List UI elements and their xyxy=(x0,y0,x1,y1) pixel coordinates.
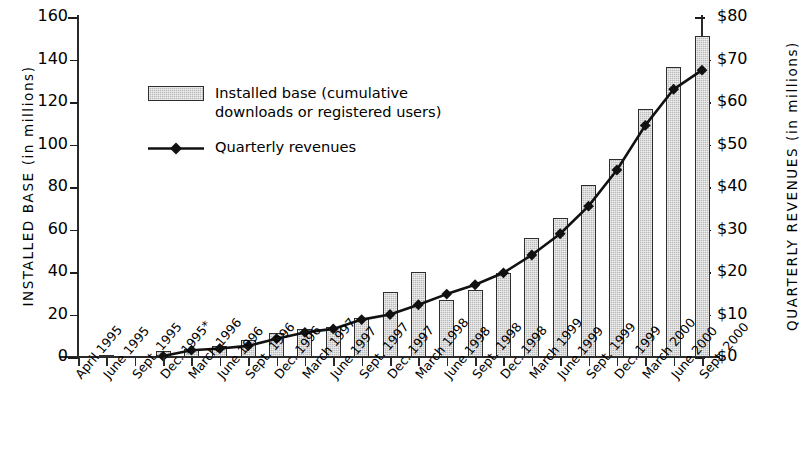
line-diamond-icon xyxy=(148,141,204,156)
y-axis-right-tick-label: $50 xyxy=(717,134,779,153)
y-axis-left-tick-mark xyxy=(70,272,78,274)
y-axis-right-tick-label: $60 xyxy=(717,91,779,110)
line-marker-diamond xyxy=(470,279,481,290)
legend-item-installed-base: Installed base (cumulative downloads or … xyxy=(148,84,441,121)
y-axis-right-tick-label: $70 xyxy=(717,49,779,68)
legend-label-installed-base: Installed base (cumulative downloads or … xyxy=(215,84,441,121)
y-axis-left-tick-mark xyxy=(70,60,78,62)
legend-item-quarterly-revenues: Quarterly revenues xyxy=(148,138,441,157)
y-axis-left-tick-label: 40 xyxy=(8,261,68,280)
y-axis-left-tick-label: 80 xyxy=(8,176,68,195)
y-axis-right-tick-label: $80 xyxy=(717,6,779,25)
y-axis-left-tick-mark xyxy=(70,315,78,317)
line-marker-diamond xyxy=(441,289,452,300)
line-series xyxy=(78,17,702,357)
y-axis-left-tick-mark xyxy=(68,17,78,19)
y-axis-left-tick-label: 60 xyxy=(8,219,68,238)
y-axis-left-tick-mark xyxy=(70,102,78,104)
y-axis-right-tick-label: $40 xyxy=(717,176,779,195)
chart-legend: Installed base (cumulative downloads or … xyxy=(148,84,441,166)
y-axis-right-tick-label: $20 xyxy=(717,261,779,280)
line-marker-diamond xyxy=(385,309,396,320)
y-axis-left-tick-label: 140 xyxy=(8,49,68,68)
y-axis-left-tick-mark xyxy=(68,357,78,359)
y-axis-left-tick-mark xyxy=(70,230,78,232)
y-axis-left-tick-label: 160 xyxy=(8,6,68,25)
y-axis-right-title: QUARTERLY REVENUES (in millions) xyxy=(784,6,800,366)
y-axis-right-tick-label: $10 xyxy=(717,304,779,323)
line-diamond-glyph xyxy=(148,141,204,156)
y-axis-left-tick-label: 0 xyxy=(8,346,68,365)
bar-swatch-icon xyxy=(148,86,204,101)
y-axis-left-tick-label: 120 xyxy=(8,91,68,110)
y-axis-left-tick-mark xyxy=(70,145,78,147)
chart-container: INSTALLED BASE (in millions) QUARTERLY R… xyxy=(0,0,807,465)
legend-label-line2: downloads or registered users) xyxy=(215,103,441,120)
y-axis-left-tick-label: 100 xyxy=(8,134,68,153)
legend-label-line1: Installed base (cumulative xyxy=(215,84,408,101)
legend-label-quarterly-revenues: Quarterly revenues xyxy=(215,138,356,157)
y-axis-right-tick-label: $30 xyxy=(717,219,779,238)
plot-area xyxy=(78,17,702,357)
line-marker-diamond xyxy=(413,299,424,310)
y-axis-left-tick-label: 20 xyxy=(8,304,68,323)
y-axis-left-tick-mark xyxy=(70,187,78,189)
